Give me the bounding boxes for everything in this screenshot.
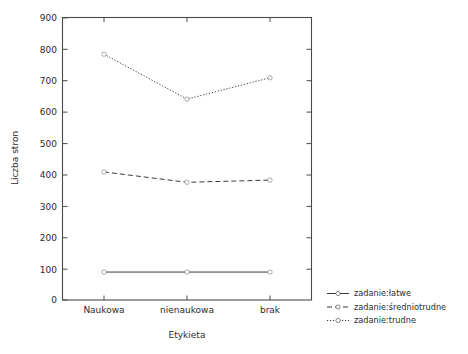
- plot-frame: [63, 18, 312, 301]
- y-tick-label: 900: [40, 13, 57, 23]
- legend-label: zadanie:łatwe: [354, 288, 411, 298]
- y-tick-label: 500: [40, 139, 57, 149]
- y-axis-title: Liczba stron: [10, 131, 20, 185]
- y-tick-label: 700: [40, 76, 57, 86]
- y-tick-label: 100: [40, 265, 57, 275]
- data-point: [268, 76, 272, 80]
- series-group: [102, 52, 272, 274]
- y-tick-label: 400: [40, 170, 57, 180]
- y-tick-labels: 900 800 700 600 500 400 300 200 100 0: [40, 13, 57, 305]
- data-point: [185, 180, 189, 184]
- data-point: [102, 170, 106, 174]
- data-point: [185, 270, 189, 274]
- data-point: [102, 270, 106, 274]
- legend: zadanie:łatwe zadanie:średniotrudne zada…: [327, 288, 446, 325]
- x-tick-label: brak: [260, 305, 281, 315]
- x-tick-label: nienaukowa: [160, 305, 214, 315]
- legend-item-trudne[interactable]: zadanie:trudne: [327, 315, 416, 325]
- legend-label: zadanie:trudne: [354, 315, 416, 325]
- y-tick-label: 0: [51, 295, 57, 305]
- x-tickmarks: [104, 18, 270, 301]
- legend-label: zadanie:średniotrudne: [354, 302, 446, 312]
- y-tickmarks-right: [307, 49, 312, 269]
- data-point: [102, 52, 106, 56]
- y-tickmarks: [63, 18, 68, 300]
- data-point: [268, 178, 272, 182]
- y-tick-label: 300: [40, 202, 57, 212]
- series-markers: [102, 52, 272, 274]
- legend-marker-icon: [336, 305, 340, 309]
- chart-canvas: 900 800 700 600 500 400 300 200 100 0 Li…: [0, 0, 468, 354]
- legend-marker-icon: [336, 318, 340, 322]
- series-line-trudne: [104, 54, 270, 99]
- x-tick-label: Naukowa: [83, 305, 124, 315]
- line-chart: 900 800 700 600 500 400 300 200 100 0 Li…: [0, 0, 468, 354]
- y-tick-label: 600: [40, 107, 57, 117]
- y-tick-label: 200: [40, 233, 57, 243]
- y-tick-label: 800: [40, 45, 57, 55]
- legend-item-latwe[interactable]: zadanie:łatwe: [327, 288, 411, 298]
- x-tick-labels: Naukowa nienaukowa brak: [83, 305, 280, 315]
- legend-marker-icon: [336, 291, 340, 295]
- x-axis-title: Etykieta: [169, 330, 206, 340]
- data-point: [185, 97, 189, 101]
- legend-item-sredniotrudne[interactable]: zadanie:średniotrudne: [327, 302, 446, 312]
- data-point: [268, 270, 272, 274]
